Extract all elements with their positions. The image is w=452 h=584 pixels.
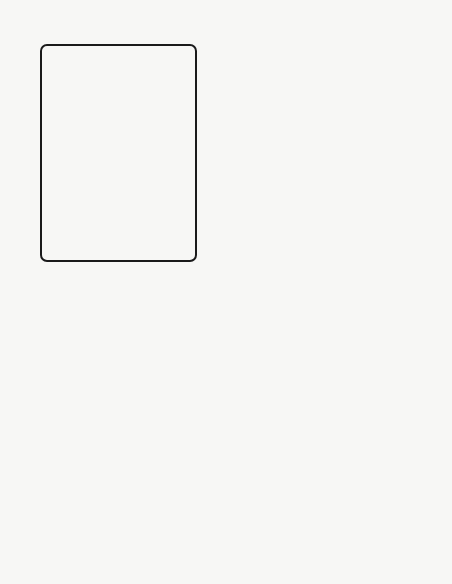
hatched-background [41,45,196,261]
vaucluse-map [0,0,452,584]
map-page [0,0,452,584]
